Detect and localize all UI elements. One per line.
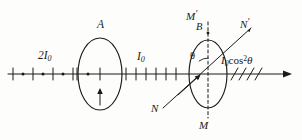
- label-transmission-axis-n-prime: N′: [240, 18, 249, 30]
- label-output-intensity: I0cos2θ: [221, 55, 252, 68]
- analyzer-point-b-dot: [207, 32, 210, 35]
- label-transmission-axis-n: N: [151, 103, 158, 114]
- ray-diagram-canvas: [0, 0, 302, 140]
- theta-angle-arc: [199, 58, 208, 61]
- label-theta-angle: θ: [190, 51, 195, 62]
- output-beam-arrowhead: [283, 71, 292, 78]
- label-incident-intensity: 2I0: [38, 50, 52, 63]
- label-after-polarizer-intensity: I0: [137, 51, 145, 64]
- label-analyzer-axis-m: M: [199, 120, 208, 131]
- optics-ray-diagram: 2I0 A I0 M′ B N′ θ I0cos2θ N M: [0, 0, 302, 140]
- label-analyzer-point-b: B: [196, 22, 202, 33]
- polarizer-axis-arrow: [97, 88, 103, 105]
- label-polarizer-a: A: [97, 19, 104, 31]
